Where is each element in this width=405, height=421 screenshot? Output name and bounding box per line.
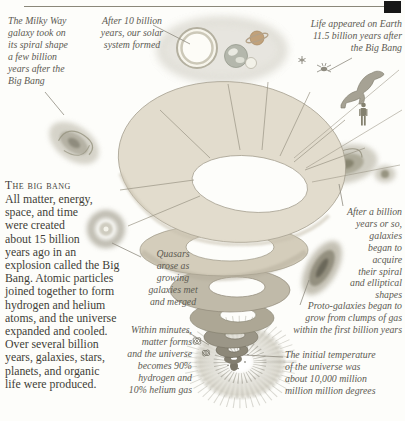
moon-icon: [246, 58, 257, 69]
annotation-milky-way: The Milky Waygalaxy took onits spiral sh…: [8, 15, 98, 88]
annotation-initial-temperature: The initial temperatureof the universe w…: [285, 349, 403, 397]
annotation-solar-system: After 10 billionyears, our solarsystem f…: [86, 15, 178, 51]
big-bang-section: The big bang All matter, energy,space, a…: [5, 179, 129, 391]
earth-icon: [225, 45, 248, 68]
annotation-life-on-earth: Life appeared on Earth11.5 billion years…: [268, 18, 402, 54]
dinosaur-icon: [341, 71, 384, 108]
annotation-galaxy-shapes: After a billionyears or so,galaxiesbegan…: [306, 206, 402, 301]
flower-icon: [299, 56, 306, 64]
milky-way-galaxy-illustration: [41, 113, 106, 173]
annotation-proto-galaxies: Proto-galaxies began togrow from clumps …: [282, 300, 402, 336]
top-rule: [24, 6, 384, 7]
section-heading: The big bang: [5, 179, 129, 191]
corner-marker-icon: [384, 1, 401, 13]
annotation-quasars: Quasarsarose asgrowinggalaxies metand me…: [138, 248, 208, 308]
encyclopedia-page: The Milky Waygalaxy took onits spiral sh…: [0, 0, 405, 421]
section-body: All matter, energy,space, and timewere c…: [5, 193, 129, 391]
sun-icon: [177, 28, 217, 68]
human-icon: [359, 103, 367, 126]
